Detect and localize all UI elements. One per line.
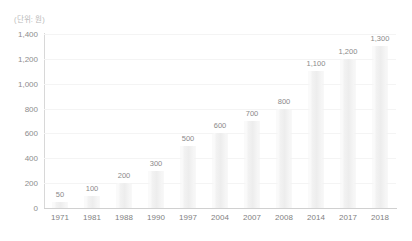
x-axis-tick-labels: 1971198119881990199720042007200820142017…	[44, 213, 396, 229]
y-axis-tick: 200	[25, 179, 38, 188]
x-axis-tick: 1981	[83, 213, 101, 222]
bar-value-label: 100	[86, 184, 99, 193]
bar[interactable]	[309, 71, 324, 208]
bar-chart-card: (단위: 원) 02004006008001,0001,2001,400 501…	[0, 0, 412, 241]
bar-column[interactable]: 600	[207, 34, 233, 208]
bar[interactable]	[117, 183, 132, 208]
bar-value-label: 1,300	[371, 34, 390, 43]
x-axis-tick: 1971	[51, 213, 69, 222]
bar[interactable]	[245, 121, 260, 208]
chart-unit-label: (단위: 원)	[14, 13, 45, 24]
bar-value-label: 500	[182, 134, 195, 143]
bar[interactable]	[149, 171, 164, 208]
bar-value-label: 1,100	[307, 59, 326, 68]
bar-value-label: 800	[278, 97, 291, 106]
y-axis-tick: 600	[25, 129, 38, 138]
y-axis-tick: 1,000	[18, 79, 38, 88]
bar[interactable]	[277, 109, 292, 208]
x-axis-tick: 2004	[211, 213, 229, 222]
y-axis-tick: 400	[25, 154, 38, 163]
bar-column[interactable]: 500	[175, 34, 201, 208]
bar-column[interactable]: 50	[47, 34, 73, 208]
x-axis-tick: 1990	[147, 213, 165, 222]
bar-column[interactable]: 100	[79, 34, 105, 208]
bar-value-label: 700	[246, 109, 259, 118]
x-axis-tick: 1988	[115, 213, 133, 222]
bar[interactable]	[213, 133, 228, 208]
bar-column[interactable]: 700	[239, 34, 265, 208]
bar-column[interactable]: 200	[111, 34, 137, 208]
y-axis-tick: 800	[25, 104, 38, 113]
bar-value-label: 200	[118, 171, 131, 180]
x-axis-tick: 2018	[371, 213, 389, 222]
bar-value-label: 1,200	[339, 47, 358, 56]
bar-value-label: 300	[150, 159, 163, 168]
y-axis-tick: 0	[34, 204, 38, 213]
bar-column[interactable]: 1,200	[335, 34, 361, 208]
bar-value-label: 50	[56, 190, 64, 199]
bar-column[interactable]: 300	[143, 34, 169, 208]
x-axis-tick: 2017	[339, 213, 357, 222]
bar[interactable]	[341, 59, 356, 208]
x-axis-tick: 2008	[275, 213, 293, 222]
bar-column[interactable]: 1,300	[367, 34, 393, 208]
bar[interactable]	[85, 196, 100, 208]
x-axis-tick: 2007	[243, 213, 261, 222]
x-axis-line	[44, 208, 397, 209]
plot-area: 501002003005006007008001,1001,2001,300	[44, 34, 396, 208]
bar[interactable]	[373, 46, 388, 208]
bar-column[interactable]: 800	[271, 34, 297, 208]
bar-column[interactable]: 1,100	[303, 34, 329, 208]
y-axis-tick: 1,400	[18, 30, 38, 39]
y-axis-tick-labels: 02004006008001,0001,2001,400	[0, 34, 38, 208]
bar-value-label: 600	[214, 121, 227, 130]
bar[interactable]	[181, 146, 196, 208]
y-axis-tick: 1,200	[18, 54, 38, 63]
x-axis-tick: 1997	[179, 213, 197, 222]
x-axis-tick: 2014	[307, 213, 325, 222]
